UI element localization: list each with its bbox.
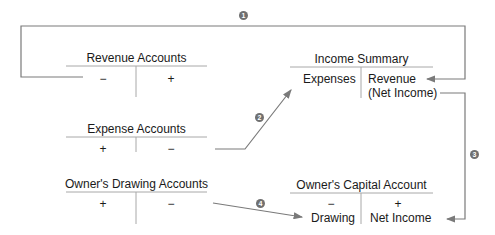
flow-line-2 xyxy=(215,90,291,149)
capital-drawing-label: Drawing xyxy=(311,211,355,225)
expense-credit-sign: − xyxy=(164,142,178,156)
capital-debit-sign: − xyxy=(311,197,351,211)
expense-accounts-title: Expense Accounts xyxy=(66,122,207,136)
expense-debit-sign: + xyxy=(96,142,110,156)
income-summary-net-income: (Net Income) xyxy=(368,86,437,100)
income-summary-revenue: Revenue xyxy=(368,72,416,86)
drawing-debit-sign: + xyxy=(96,197,110,211)
step-marker-2: 2 xyxy=(255,113,264,122)
capital-account-title: Owner's Capital Account xyxy=(290,178,433,192)
capital-net-income-label: Net Income xyxy=(370,211,431,225)
flow-lines xyxy=(0,0,495,235)
capital-credit-sign: + xyxy=(383,197,413,211)
step-marker-1: 1 xyxy=(239,11,248,20)
step-marker-4: 4 xyxy=(256,199,265,208)
flow-line-3 xyxy=(440,93,465,219)
revenue-credit-sign: + xyxy=(164,72,178,86)
income-summary-expenses: Expenses xyxy=(303,72,356,86)
drawing-credit-sign: − xyxy=(164,197,178,211)
revenue-debit-sign: − xyxy=(96,72,110,86)
revenue-accounts-title: Revenue Accounts xyxy=(66,51,207,65)
income-summary-title: Income Summary xyxy=(290,52,433,66)
step-marker-3: 3 xyxy=(470,150,479,159)
drawing-accounts-title: Owner's Drawing Accounts xyxy=(62,177,211,191)
